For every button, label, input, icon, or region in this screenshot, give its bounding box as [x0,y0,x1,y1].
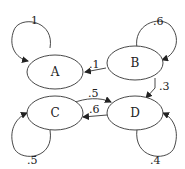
edge-label-c-c: .5 [27,154,38,167]
edge-label-b-a: .1 [89,58,100,71]
edge-label-a-a: 1 [31,14,38,27]
edge-label-c-d: .5 [88,87,99,100]
edge-label-b-b: .6 [153,15,164,28]
edge-label-d-d: .4 [150,154,161,167]
markov-chain-diagram: 1 .6 .1 .3 .5 .6 .5 .4 A B [0,0,185,169]
node-c: C [27,96,83,130]
node-label-a: A [50,65,60,79]
node-b: B [107,46,163,80]
node-d: D [107,96,163,130]
node-a: A [27,55,83,89]
edge-d-c: .6 [83,103,107,117]
edge-c-d: .5 [73,87,111,103]
edge-label-d-c: .6 [89,103,100,116]
edge-label-b-d: .3 [159,80,170,93]
node-label-d: D [130,106,140,120]
node-label-b: B [131,56,140,70]
edge-a-a: 1 [12,14,51,61]
edge-b-d: .3 [146,78,170,98]
node-label-c: C [50,106,59,120]
edge-b-a: .1 [85,58,106,72]
